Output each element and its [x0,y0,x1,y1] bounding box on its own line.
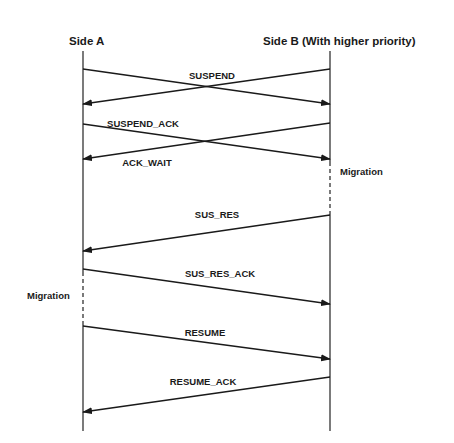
message-label-sus-res: SUS_RES [195,209,239,220]
note-migration-side-a: Migration [27,290,70,301]
message-label-ack-wait: ACK_WAIT [122,157,172,168]
actor-label-side-b: Side B (With higher priority) [263,35,416,47]
message-label-sus-res-ack: SUS_RES_ACK [185,268,255,279]
message-label-suspend: SUSPEND [189,70,235,81]
message-arrow-sus-res [83,215,330,251]
note-migration-side-b: Migration [340,166,383,177]
message-label-resume: RESUME [185,327,226,338]
message-label-suspend-ack: SUSPEND_ACK [107,118,179,129]
sequence-diagram: Side A Side B (With higher priority) SUS… [0,0,454,443]
actor-label-side-a: Side A [69,35,104,47]
message-label-resume-ack: RESUME_ACK [170,376,237,387]
